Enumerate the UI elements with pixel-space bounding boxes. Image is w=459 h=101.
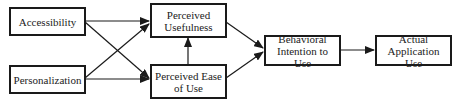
- node-perceived-ease-line1: Perceived Ease: [155, 70, 222, 82]
- node-personalization-label: Personalization: [14, 74, 82, 86]
- node-perceived-ease-of-use: Perceived Ease of Use: [150, 64, 227, 99]
- node-perceived-usefulness-line2: Usefulness: [164, 21, 212, 33]
- node-accessibility: Accessibility: [9, 7, 86, 36]
- node-actual-use-line1: Actual: [399, 33, 428, 45]
- node-behavioral-intention: Behavioral Intention to Use: [264, 35, 341, 66]
- node-actual-use-line2: Application Use: [379, 45, 448, 69]
- node-behavioral-intention-line1: Behavioral: [278, 33, 326, 45]
- node-perceived-usefulness: Perceived Usefulness: [150, 3, 227, 38]
- node-perceived-ease-line2: of Use: [174, 82, 203, 94]
- node-accessibility-label: Accessibility: [19, 16, 76, 28]
- tam-diagram: Accessibility Personalization Perceived …: [0, 0, 459, 101]
- node-perceived-usefulness-line1: Perceived: [167, 9, 210, 21]
- node-behavioral-intention-line2: Intention to Use: [268, 45, 337, 69]
- node-personalization: Personalization: [9, 65, 86, 94]
- edge-ease-to-intention: [226, 52, 263, 78]
- node-actual-application-use: Actual Application Use: [375, 35, 452, 66]
- edge-usefulness-to-intention: [226, 22, 263, 48]
